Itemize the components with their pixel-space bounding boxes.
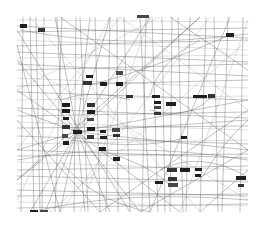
edge-diagonal: [17, 17, 160, 90]
graph-node: [152, 95, 160, 98]
graph-node: [180, 168, 190, 172]
graph-node: [30, 210, 38, 212]
edge-curve: [40, 197, 248, 210]
graph-node: [63, 117, 69, 120]
graph-node: [195, 168, 202, 171]
graph-node: [62, 125, 70, 129]
graph-node: [208, 94, 215, 98]
graph-node: [154, 106, 161, 109]
graph-node: [87, 118, 94, 121]
edge-vertical: [30, 17, 34, 212]
graph-node: [200, 95, 207, 98]
graph-node: [137, 15, 149, 18]
edge-vertical: [42, 17, 44, 212]
graph-node: [126, 95, 133, 98]
graph-node: [116, 82, 123, 86]
graph-node: [112, 128, 120, 132]
edge-horizontal: [17, 166, 248, 170]
graph-node: [168, 177, 177, 181]
edge-curve: [150, 40, 200, 95]
graph-node: [63, 141, 69, 145]
graph-node: [40, 210, 48, 212]
graph-node: [20, 24, 27, 28]
graph-node: [99, 147, 106, 151]
graph-node: [38, 28, 45, 32]
graph-node: [86, 75, 93, 78]
edge-horizontal: [17, 150, 248, 158]
edge-vertical: [36, 17, 40, 212]
graph-node: [87, 110, 95, 114]
edge-vertical: [124, 17, 130, 212]
network-graph: [0, 0, 265, 229]
graph-node: [83, 81, 92, 85]
graph-node: [73, 130, 82, 134]
edge-horizontal: [17, 28, 248, 32]
edge-vertical: [74, 17, 76, 212]
edge-horizontal: [17, 20, 248, 22]
graph-node: [62, 134, 68, 138]
edge-vertical: [178, 17, 183, 212]
graph-node: [100, 136, 107, 139]
graph-node: [154, 101, 161, 104]
edge-vertical: [140, 17, 150, 212]
edge-vertical: [21, 17, 23, 212]
graph-node: [116, 71, 123, 75]
graph-node: [113, 134, 120, 137]
edges-layer: [17, 17, 248, 212]
graph-node: [238, 184, 244, 187]
edge-horizontal: [17, 64, 248, 70]
edge-vertical: [222, 17, 228, 212]
graph-node: [167, 168, 177, 172]
graph-node: [155, 181, 163, 184]
edge-horizontal: [17, 122, 248, 130]
graph-node: [87, 135, 94, 139]
graph-node: [154, 112, 161, 115]
edge-diagonal: [17, 120, 100, 212]
graph-node: [87, 103, 95, 107]
edge-horizontal: [17, 126, 248, 128]
edge-vertical: [186, 17, 190, 212]
edge-horizontal: [17, 26, 248, 38]
graph-node: [113, 157, 120, 161]
graph-node: [166, 102, 176, 106]
graph-node: [100, 130, 106, 133]
edge-horizontal: [17, 136, 248, 144]
graph-node: [168, 183, 178, 187]
graph-node: [62, 109, 70, 113]
graph-node: [62, 103, 70, 107]
graph-node: [226, 33, 234, 37]
edge-hub: [77, 132, 85, 212]
edge-diagonal: [180, 20, 248, 212]
graph-node: [87, 127, 95, 131]
edge-horizontal: [17, 180, 248, 184]
graph-node: [195, 174, 201, 177]
graph-node: [193, 95, 200, 98]
graph-node: [236, 176, 246, 180]
edge-horizontal: [17, 108, 248, 118]
graph-node: [181, 136, 187, 139]
edge-curve: [20, 30, 248, 41]
graph-node: [100, 82, 107, 86]
